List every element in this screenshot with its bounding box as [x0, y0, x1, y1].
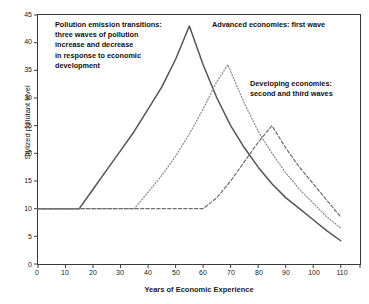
x-tick-80: 80 [249, 269, 269, 276]
x-tick-90: 90 [276, 269, 296, 276]
x-tick-100: 100 [304, 269, 324, 276]
x-tick-40: 40 [138, 269, 158, 276]
y-tick-10: 10 [14, 205, 32, 212]
x-tick-30: 30 [110, 269, 130, 276]
y-tick-40: 40 [14, 38, 32, 45]
y-tick-45: 45 [14, 11, 32, 18]
y-tick-15: 15 [14, 177, 32, 184]
x-tick-20: 20 [83, 269, 103, 276]
advanced-economies-label: Advanced economies: first wave [212, 20, 362, 30]
y-tick-20: 20 [14, 150, 32, 157]
y-tick-5: 5 [14, 233, 32, 240]
x-axis-label: Years of Economic Experience [37, 285, 361, 294]
x-tick-50: 50 [166, 269, 186, 276]
pollution-transitions-note: Pollution emission transitions: three wa… [55, 20, 195, 71]
x-tick-70: 70 [221, 269, 241, 276]
y-tick-0: 0 [14, 261, 32, 268]
developing-economies-label: Developing economies: second and third w… [250, 79, 365, 99]
x-tick-110: 110 [332, 269, 352, 276]
x-tick-0: 0 [27, 269, 47, 276]
y-tick-35: 35 [14, 66, 32, 73]
chart-figure: Stylized pollutant level Years of Econom… [0, 0, 369, 304]
y-tick-25: 25 [14, 122, 32, 129]
x-tick-60: 60 [193, 269, 213, 276]
x-tick-10: 10 [55, 269, 75, 276]
y-tick-30: 30 [14, 94, 32, 101]
